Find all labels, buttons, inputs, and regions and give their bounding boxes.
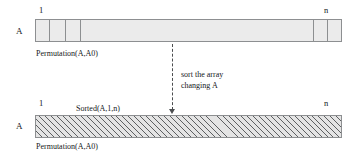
- bottom-array-start-index-label: 1: [39, 99, 43, 108]
- top-array-cell-divider: [80, 20, 81, 41]
- transition-note-line-1: sort the array: [181, 71, 223, 79]
- transition-arrowhead-icon: [169, 109, 175, 114]
- top-array-cell-divider: [49, 20, 50, 41]
- top-array-start-index-label: 1: [39, 6, 43, 15]
- diagram-canvas: 1 n A Permutation(A,A0) sort the array c…: [0, 0, 360, 161]
- top-array-cell-divider: [327, 20, 328, 41]
- bottom-array-end-index-label: n: [324, 99, 328, 108]
- transition-dashed-line: [172, 44, 173, 110]
- top-array-bar: [35, 19, 342, 42]
- transition-note-line-2: changing A: [181, 82, 218, 90]
- bottom-array-variable-label: A: [16, 122, 23, 131]
- bottom-array-sorted-predicate-label: Sorted(A,1,n): [76, 105, 120, 113]
- top-array-end-index-label: n: [324, 6, 328, 15]
- top-array-predicate-label: Permutation(A,A0): [36, 50, 98, 58]
- top-array-variable-label: A: [16, 27, 23, 36]
- top-array-cell-divider: [313, 20, 314, 41]
- bottom-array-bar: [35, 115, 342, 138]
- bottom-array-predicate-label: Permutation(A,A0): [36, 143, 98, 151]
- top-array-cell-divider: [65, 20, 66, 41]
